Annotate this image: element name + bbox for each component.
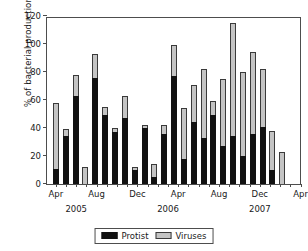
y-axis-tick — [43, 15, 47, 16]
y-axis-tick-label: 0 — [36, 179, 41, 189]
stacked-bar[interactable] — [53, 103, 59, 184]
legend-item-protist: Protist — [102, 231, 149, 241]
stacked-bar[interactable] — [201, 69, 207, 184]
bar-segment-viruses — [53, 103, 59, 169]
bar-slot — [71, 18, 81, 184]
stacked-bar[interactable] — [73, 75, 79, 184]
x-axis-tick — [209, 184, 210, 187]
x-axis-tick — [168, 184, 169, 187]
bar-slot — [277, 18, 287, 184]
bar-slot — [209, 18, 219, 184]
stacked-bar[interactable] — [240, 72, 246, 184]
bar-segment-protist — [112, 132, 118, 184]
stacked-bar[interactable] — [92, 54, 98, 184]
bar-segment-viruses — [63, 129, 69, 136]
bar-segment-viruses — [240, 72, 246, 156]
bar-segment-protist — [230, 136, 236, 184]
legend-label-viruses: Viruses — [175, 231, 206, 241]
bar-segment-viruses — [220, 79, 226, 146]
stacked-bar[interactable] — [210, 101, 216, 184]
y-axis-tick — [43, 71, 47, 72]
bar-slot — [268, 18, 278, 184]
x-axis-tick — [188, 184, 189, 187]
bar-slot — [61, 18, 71, 184]
x-axis-year-label: 2007 — [249, 204, 271, 214]
bar-segment-viruses — [260, 69, 266, 126]
stacked-bar[interactable] — [260, 69, 266, 184]
chart-container: % of bacterial production 02040608010012… — [0, 0, 308, 251]
bar-slot — [287, 18, 297, 184]
stacked-bar[interactable] — [112, 128, 118, 184]
bar-segment-protist — [201, 138, 207, 184]
bar-segment-protist — [161, 134, 167, 184]
stacked-bar[interactable] — [269, 131, 275, 184]
stacked-bar[interactable] — [82, 167, 88, 184]
bar-slot — [189, 18, 199, 184]
x-axis-tick — [260, 184, 261, 187]
y-axis-tick-label: 100 — [25, 39, 41, 49]
bar-slot — [51, 18, 61, 184]
bar-segment-viruses — [82, 167, 88, 184]
x-axis-tick — [178, 184, 179, 187]
bar-slot — [258, 18, 268, 184]
stacked-bar[interactable] — [181, 108, 187, 184]
bar-segment-protist — [102, 115, 108, 184]
protist-swatch-icon — [102, 232, 118, 239]
bar-segment-protist — [240, 156, 246, 184]
stacked-bar[interactable] — [122, 96, 128, 184]
bar-segment-protist — [220, 146, 226, 184]
x-axis-tick — [250, 184, 251, 187]
bar-segment-protist — [63, 136, 69, 184]
bar-segment-protist — [210, 115, 216, 184]
stacked-bar[interactable] — [191, 85, 197, 184]
stacked-bar[interactable] — [132, 167, 138, 184]
stacked-bar[interactable] — [161, 125, 167, 184]
x-axis-tick-label: Dec — [252, 189, 268, 199]
bar-slot — [149, 18, 159, 184]
bar-segment-viruses — [92, 54, 98, 78]
stacked-bar[interactable] — [279, 152, 285, 184]
bar-segment-viruses — [279, 152, 285, 184]
bar-slot — [140, 18, 150, 184]
x-axis-tick-label: Apr — [293, 189, 308, 199]
bar-segment-viruses — [210, 101, 216, 115]
bar-segment-protist — [92, 78, 98, 184]
bar-slot — [218, 18, 228, 184]
stacked-bar[interactable] — [220, 79, 226, 184]
stacked-bar[interactable] — [102, 107, 108, 184]
stacked-bar[interactable] — [230, 23, 236, 184]
stacked-bar[interactable] — [142, 125, 148, 184]
bar-slot — [238, 18, 248, 184]
legend-label-protist: Protist — [122, 231, 149, 241]
stacked-bar[interactable] — [250, 52, 256, 184]
y-axis-tick-label: 120 — [25, 11, 41, 21]
bar-segment-viruses — [73, 75, 79, 96]
bar-segment-viruses — [122, 96, 128, 118]
x-axis-tick — [76, 184, 77, 187]
x-axis-tick — [290, 184, 291, 187]
bar-slot — [130, 18, 140, 184]
bar-segment-protist — [171, 76, 177, 184]
bar-slot — [120, 18, 130, 184]
bar-segment-protist — [181, 159, 187, 184]
legend: Protist Viruses — [95, 228, 214, 244]
x-axis-tick — [158, 184, 159, 187]
viruses-swatch-icon — [155, 232, 171, 239]
y-axis-tick — [43, 99, 47, 100]
stacked-bar[interactable] — [171, 45, 177, 184]
bar-segment-viruses — [269, 131, 275, 170]
x-axis-tick — [56, 184, 57, 187]
stacked-bar[interactable] — [63, 129, 69, 184]
bar-slot — [248, 18, 258, 184]
bar-segment-protist — [53, 169, 59, 184]
y-axis-tick — [43, 127, 47, 128]
bar-segment-protist — [73, 96, 79, 184]
stacked-bar[interactable] — [151, 164, 157, 184]
x-axis-tick — [229, 184, 230, 187]
bar-segment-viruses — [191, 85, 197, 123]
x-axis-tick — [148, 184, 149, 187]
x-axis-tick-label: Apr — [171, 189, 186, 199]
y-axis-tick — [43, 43, 47, 44]
x-axis-tick — [301, 184, 302, 187]
y-axis-tick — [43, 183, 47, 184]
